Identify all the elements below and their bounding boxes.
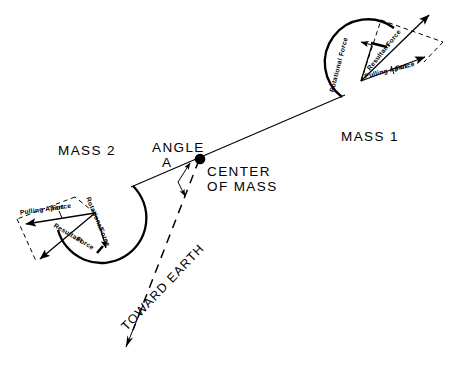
mass-2-rotational-label-line1: Rotational (85, 196, 105, 231)
mass-1-group: Rotational Force Resultant Force Pulling… (325, 15, 443, 144)
angle-a-indicator: ANGLE A (152, 140, 205, 196)
toward-earth-vector: TOWARD EARTH (119, 160, 208, 347)
mass-2-label: MASS 2 (58, 143, 116, 158)
center-of-mass-label-line1: CENTER (207, 164, 271, 179)
mass-1-rotational-label-line2: Force (337, 36, 349, 56)
mass-1-pulling-label-line2: Force (395, 60, 415, 72)
center-of-mass-dot (195, 154, 206, 165)
mass-2-rotational-label-line2: Force (98, 227, 112, 248)
mass-1-label: MASS 1 (341, 129, 399, 144)
diagram-canvas: TOWARD EARTH ANGLE A CENTER OF MASS (0, 0, 454, 367)
mass-1-rotational-label-line1: Rotational (328, 57, 343, 92)
mass-2-group: Rotational Force Resultant Force Pulling… (17, 143, 146, 263)
mass-2-dashed-side-left (17, 219, 36, 261)
center-of-mass-group: CENTER OF MASS (195, 154, 278, 194)
mass-2-pulling-label-line2: Force (51, 202, 71, 212)
mass-2-resultant-label-line2: Force (75, 235, 95, 251)
mass-1-dashed-side-right (424, 42, 443, 62)
mass-1-rotational-arrowhead (361, 42, 372, 45)
center-of-mass-label-line2: OF MASS (207, 179, 278, 194)
mass-2-rotational-bar (97, 246, 103, 253)
physics-force-diagram: TOWARD EARTH ANGLE A CENTER OF MASS (0, 0, 454, 367)
angle-label-line2: A (162, 155, 172, 170)
angle-label-line1: ANGLE (152, 140, 205, 155)
angle-arrow-lower (178, 182, 185, 196)
mass-2-pulling-tick (59, 211, 62, 218)
earth-label: TOWARD EARTH (119, 241, 208, 333)
